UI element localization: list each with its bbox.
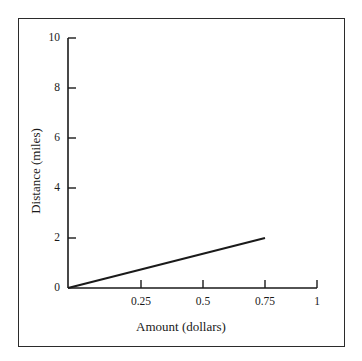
- chart-figure: 10 8 6 4 2 0 0.25 0.5 0.75 1 Amount (dol…: [0, 0, 362, 361]
- x-tick-label-1: 1: [314, 296, 320, 308]
- x-axis-title: Amount (dollars): [0, 319, 362, 335]
- y-tick-label-0: 0: [38, 282, 60, 294]
- x-tick-label-05: 0.5: [196, 296, 210, 308]
- x-tick-label-025: 0.25: [131, 296, 151, 308]
- y-axis-title: Distance (miles): [28, 91, 44, 251]
- data-line-series-0: [68, 238, 265, 288]
- y-tick-label-10: 10: [38, 32, 60, 44]
- x-tick-label-075: 0.75: [255, 296, 275, 308]
